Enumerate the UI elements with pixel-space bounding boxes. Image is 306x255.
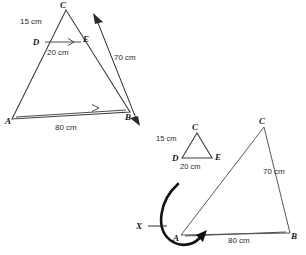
scale-factor-label-x: X: [135, 221, 143, 231]
small-dim-cd: 15 cm: [156, 134, 176, 143]
left-cb-arrowhead-bottom: [130, 116, 140, 126]
large-dim-cb: 70 cm: [263, 167, 285, 176]
small-vertex-label-c: C: [192, 122, 199, 132]
left-vertex-label-e: E: [82, 34, 89, 44]
left-triangle-outline: [12, 10, 130, 119]
left-dim-cd: 15 cm: [20, 17, 42, 26]
left-dim-cb: 70 cm: [114, 53, 136, 62]
large-vertex-label-c: C: [259, 116, 266, 126]
small-vertex-label-e: E: [214, 152, 221, 162]
large-triangle-outline: [181, 127, 290, 235]
left-vertex-label-a: A: [4, 116, 11, 126]
left-cb-arrowhead-top: [93, 13, 103, 24]
left-dim-de: 20 cm: [47, 48, 69, 57]
left-vertex-label-b: B: [124, 112, 131, 122]
left-ab-direction-tick: [92, 105, 99, 112]
diagram-canvas: C A B D E 15 cm 20 cm 70 cm 80 cm C D E …: [0, 0, 306, 255]
left-dim-ab: 80 cm: [55, 123, 77, 132]
large-vertex-label-b: B: [290, 231, 297, 241]
small-triangle-outline: [182, 133, 212, 158]
small-vertex-label-d: D: [171, 153, 179, 163]
large-dim-ab: 80 cm: [228, 236, 250, 245]
small-dim-de: 20 cm: [180, 162, 200, 171]
geometry-figure: C A B D E 15 cm 20 cm 70 cm 80 cm C D E …: [0, 0, 306, 255]
large-triangle-group: C A B 70 cm 80 cm: [172, 116, 297, 245]
left-vertex-label-c: C: [60, 0, 67, 10]
left-cb-double-arrow-shaft: [96, 18, 137, 121]
left-triangle-group: C A B D E 15 cm 20 cm 70 cm 80 cm: [4, 0, 140, 132]
small-triangle-group: C D E 15 cm 20 cm: [156, 122, 221, 171]
left-vertex-label-d: D: [32, 37, 40, 47]
